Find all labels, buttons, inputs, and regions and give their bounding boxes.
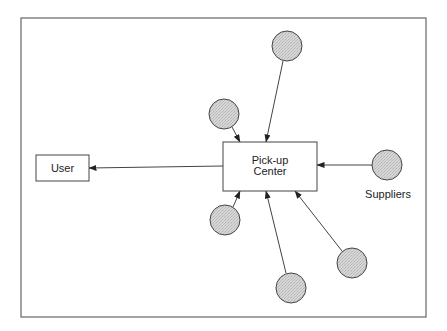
arrow-pickup_center-to-user xyxy=(89,166,223,168)
suppliers-label: Suppliers xyxy=(365,188,411,200)
supplier-lower-left-circle[interactable] xyxy=(210,205,240,235)
supply-diagram: User Pick-up Center Suppliers xyxy=(0,0,447,331)
arrow-supplier-upper-left-to-pickup_center xyxy=(232,127,240,142)
supplier-upper-left-circle[interactable] xyxy=(209,99,239,129)
user-label: User xyxy=(51,162,75,174)
supplier-right-circle[interactable] xyxy=(372,150,402,180)
arrow-supplier-top-to-pickup_center xyxy=(266,61,283,142)
arrow-supplier-lower-left-to-pickup_center xyxy=(233,191,240,207)
supplier-bottom-circle[interactable] xyxy=(276,273,306,303)
user-node[interactable]: User xyxy=(36,155,89,181)
pickup-center-label-line2: Center xyxy=(253,165,286,177)
arrow-supplier-lower-right-to-pickup_center xyxy=(295,191,342,251)
supplier-top-circle[interactable] xyxy=(272,31,302,61)
pickup-center-node[interactable]: Pick-up Center xyxy=(223,142,317,191)
supplier-lower-right-circle[interactable] xyxy=(337,248,367,278)
arrow-supplier-bottom-to-pickup_center xyxy=(266,191,286,273)
